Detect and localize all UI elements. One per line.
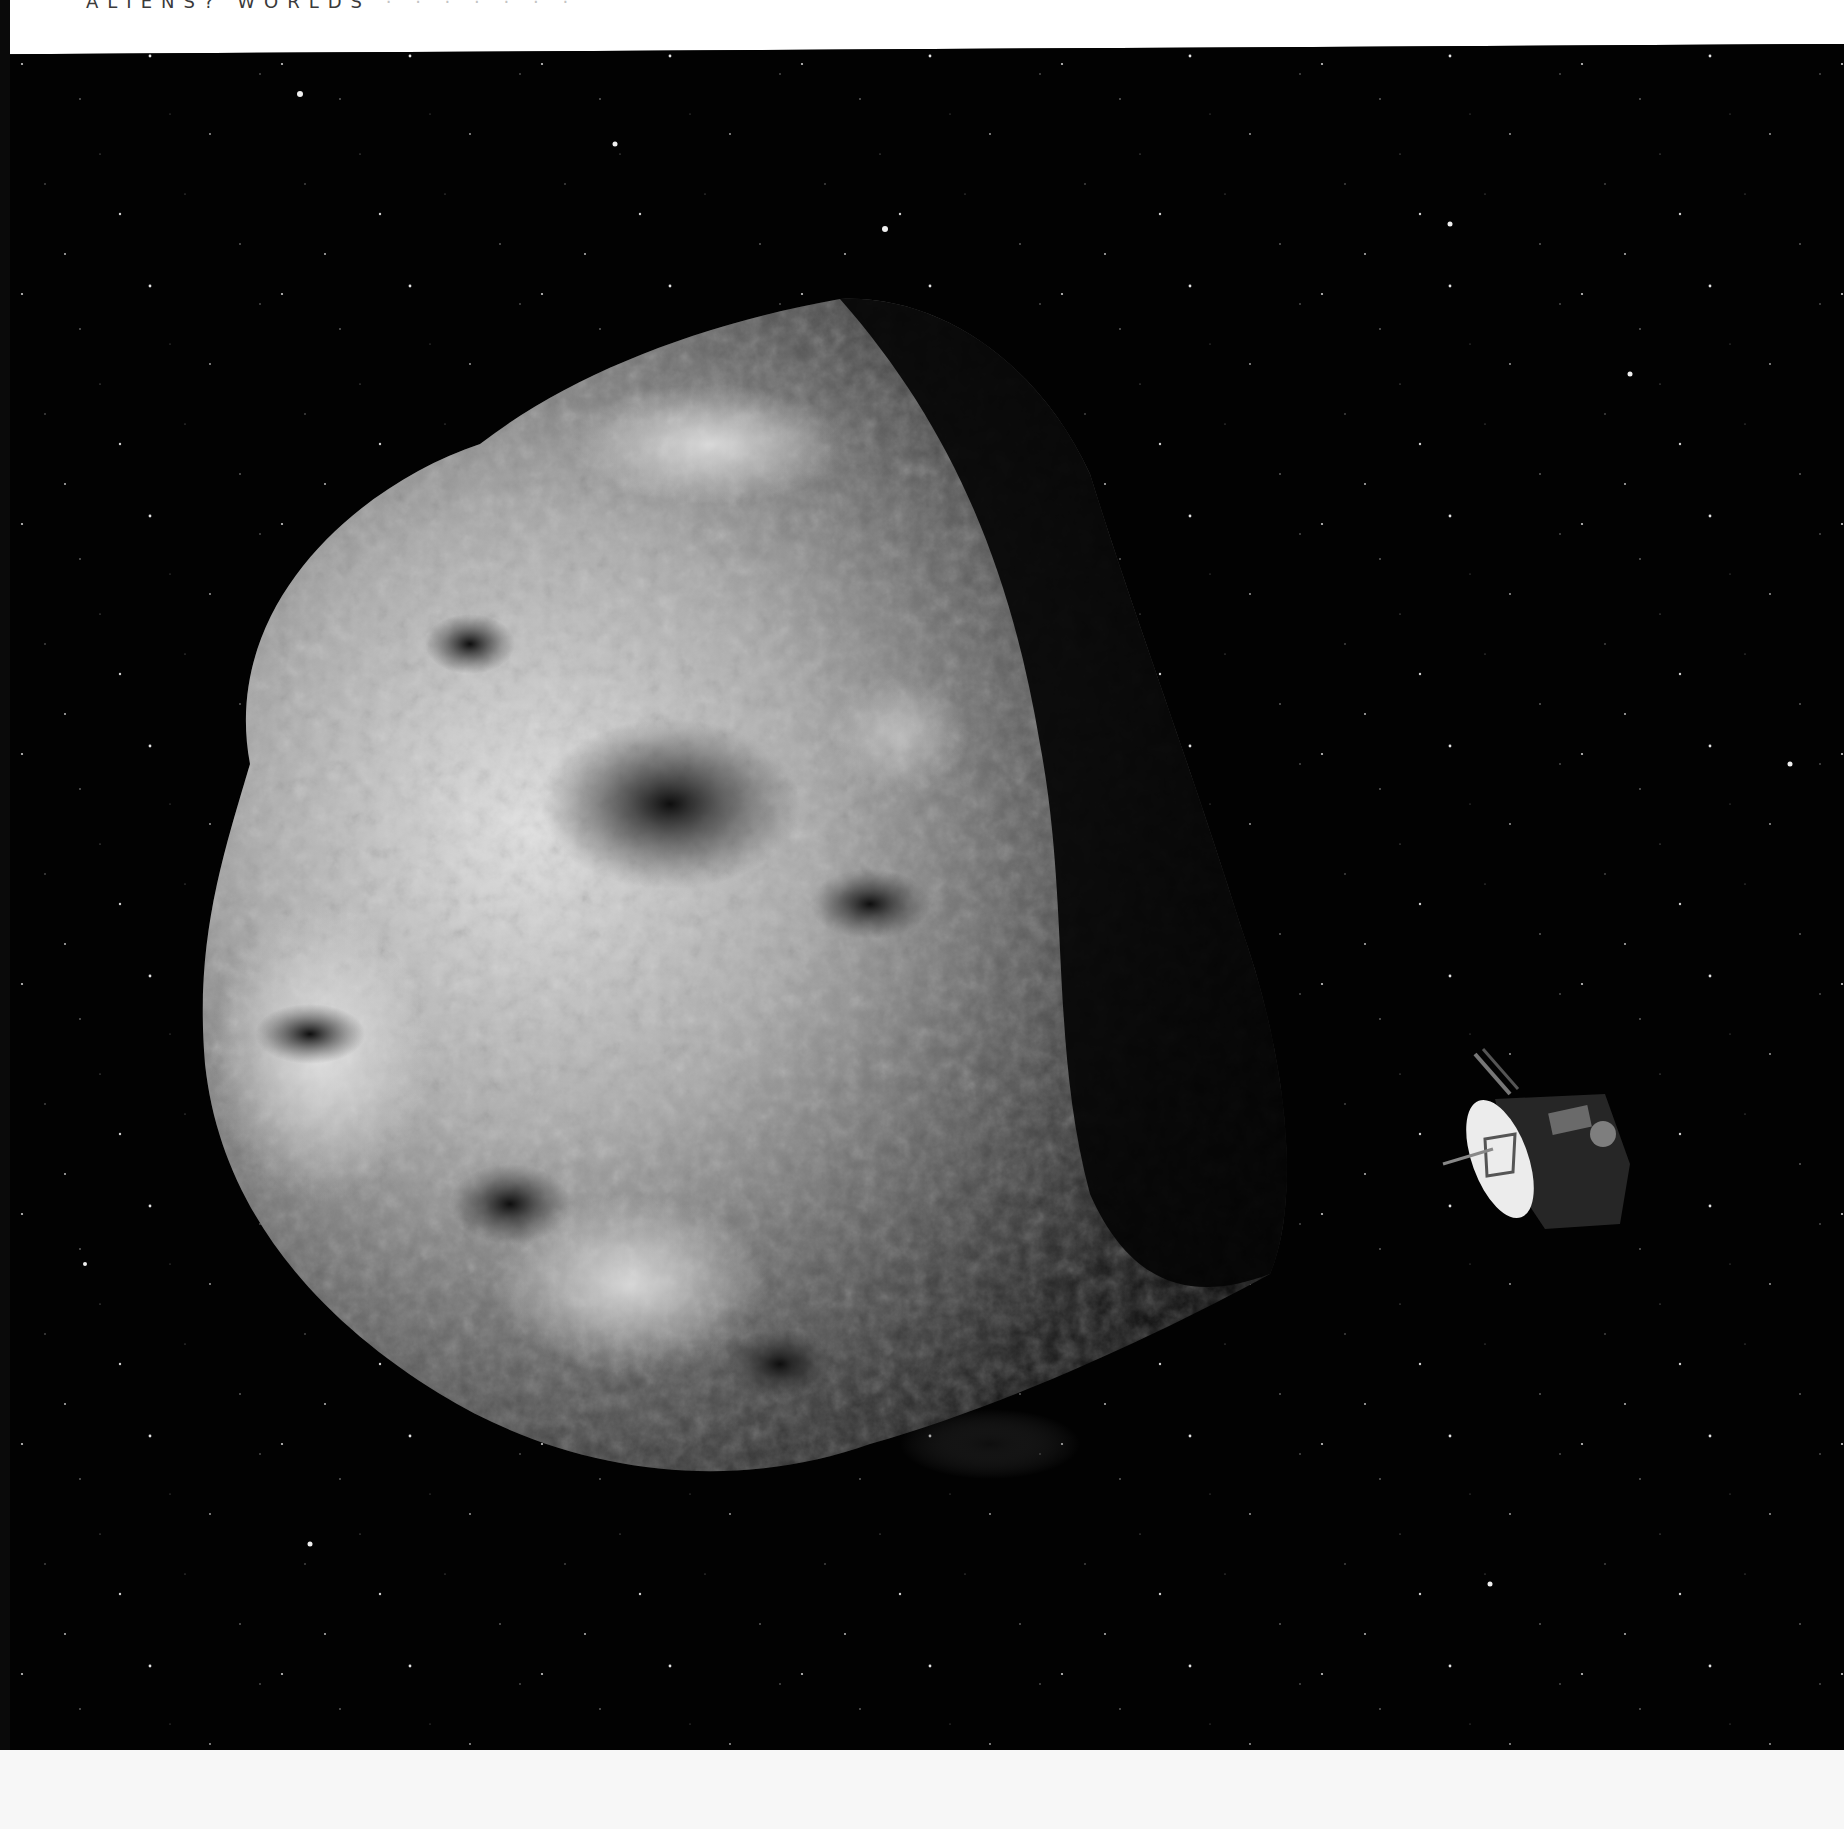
- scan-edge: [0, 0, 10, 1829]
- page-bottom-margin: [0, 1750, 1844, 1829]
- figure-plate: [10, 44, 1844, 1750]
- running-head: ALIENS? WORLDS · · · · · · ·: [86, 0, 577, 12]
- running-head-faded: · · · · · · ·: [386, 0, 577, 12]
- figure-illustration: [10, 44, 1844, 1750]
- running-head-title: ALIENS? WORLDS: [86, 0, 371, 12]
